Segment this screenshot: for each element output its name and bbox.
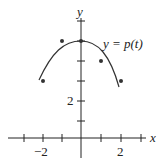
data-point [119, 79, 123, 83]
curve-label: y = p(t) [101, 36, 143, 51]
x-tick-label-2: 2 [117, 144, 124, 159]
y-axis-label: y [75, 4, 83, 19]
data-point [99, 59, 103, 63]
data-point [79, 39, 83, 43]
x-axis-label: x [149, 130, 156, 145]
chart: y x y = p(t) −2 2 2 [0, 0, 162, 165]
data-point [41, 79, 45, 83]
y-tick-label-2: 2 [67, 93, 74, 108]
x-tick-label-neg2: −2 [34, 144, 48, 159]
data-point [60, 39, 64, 43]
